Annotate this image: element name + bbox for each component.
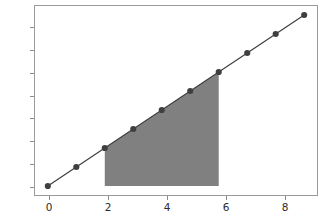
x-tick-label: 0: [46, 202, 53, 213]
data-point-marker: [73, 164, 79, 170]
shaded-area-under-curve: [105, 72, 219, 186]
x-tick-label: 2: [105, 202, 112, 213]
x-tick-label: 6: [223, 202, 230, 213]
x-tick-mark: [285, 196, 286, 200]
plot-canvas: [35, 6, 317, 195]
data-point-marker: [102, 145, 108, 151]
x-tick-label: 4: [164, 202, 171, 213]
x-tick-mark: [226, 196, 227, 200]
data-point-marker: [216, 69, 222, 75]
x-tick-label: 8: [282, 202, 289, 213]
chart-figure: 0.0 2.5 5.0 7.5 10.0 12.5 15.0 17.5 0 2 …: [0, 0, 326, 217]
data-point-marker: [187, 88, 193, 94]
data-point-marker: [301, 12, 307, 18]
x-tick-mark: [49, 196, 50, 200]
x-tick-mark: [108, 196, 109, 200]
x-tick-mark: [167, 196, 168, 200]
data-point-marker: [130, 126, 136, 132]
data-point-marker: [45, 183, 51, 189]
data-point-marker: [273, 31, 279, 37]
data-point-marker: [244, 50, 250, 56]
data-point-marker: [159, 107, 165, 113]
plot-area: [34, 5, 318, 196]
